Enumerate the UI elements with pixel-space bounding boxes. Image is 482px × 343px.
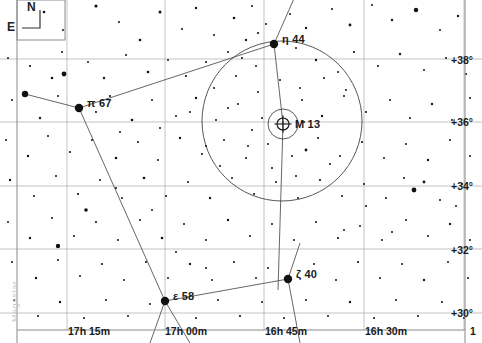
star bbox=[257, 32, 259, 34]
star bbox=[29, 237, 31, 239]
star bbox=[62, 72, 67, 77]
star bbox=[233, 17, 236, 20]
star bbox=[147, 71, 150, 74]
star bbox=[365, 111, 367, 113]
star bbox=[255, 277, 257, 279]
star bbox=[439, 29, 441, 31]
star bbox=[469, 155, 471, 157]
star bbox=[391, 19, 393, 21]
star bbox=[305, 299, 307, 301]
star bbox=[51, 77, 54, 80]
star bbox=[412, 188, 417, 193]
star bbox=[293, 239, 295, 241]
star bbox=[267, 267, 269, 269]
star bbox=[29, 65, 31, 67]
dso-label: M 13 bbox=[295, 118, 320, 130]
constellation-line bbox=[79, 108, 165, 301]
star bbox=[47, 135, 49, 137]
star bbox=[189, 263, 191, 265]
star bbox=[409, 117, 411, 119]
dec-tick-label: +38° bbox=[451, 54, 473, 66]
star bbox=[39, 117, 41, 119]
ra-tick-label: 1 bbox=[470, 325, 476, 337]
star bbox=[373, 317, 375, 319]
star bbox=[405, 219, 407, 221]
star bbox=[261, 117, 263, 119]
star bbox=[447, 261, 449, 263]
star bbox=[467, 277, 469, 279]
star bbox=[469, 239, 471, 241]
star bbox=[5, 139, 7, 141]
star bbox=[305, 149, 308, 152]
star bbox=[73, 235, 75, 237]
star bbox=[377, 65, 379, 67]
named-star bbox=[161, 297, 169, 305]
star bbox=[125, 54, 127, 56]
star bbox=[449, 223, 451, 225]
star bbox=[219, 165, 221, 167]
star bbox=[414, 8, 418, 12]
star bbox=[161, 237, 164, 240]
star bbox=[205, 267, 207, 269]
star bbox=[295, 175, 297, 177]
star bbox=[315, 221, 317, 223]
star bbox=[205, 145, 207, 147]
star bbox=[279, 79, 281, 81]
field-of-view-circle bbox=[202, 41, 362, 201]
star bbox=[175, 115, 177, 117]
constellation-line bbox=[278, 124, 283, 290]
star bbox=[189, 111, 191, 113]
star bbox=[449, 139, 451, 141]
star bbox=[283, 317, 285, 319]
star bbox=[84, 208, 88, 212]
star bbox=[319, 179, 321, 181]
star bbox=[349, 301, 351, 303]
star bbox=[119, 131, 121, 133]
star bbox=[251, 129, 253, 131]
star bbox=[115, 187, 117, 189]
star bbox=[185, 75, 187, 77]
star bbox=[175, 251, 177, 253]
dec-tick-label: +36° bbox=[451, 116, 473, 128]
star bbox=[167, 277, 169, 279]
star bbox=[423, 69, 425, 71]
dec-tick-label: +32° bbox=[451, 244, 473, 256]
star bbox=[431, 103, 433, 105]
star bbox=[439, 199, 441, 201]
star bbox=[179, 137, 181, 139]
star bbox=[201, 153, 203, 155]
star bbox=[209, 197, 211, 199]
star bbox=[11, 99, 13, 101]
compass-box bbox=[17, 0, 65, 40]
compass-north-label: N bbox=[27, 0, 36, 14]
star bbox=[363, 183, 365, 185]
star bbox=[297, 197, 299, 199]
star bbox=[255, 65, 257, 67]
megastar-watermark: Megastar bbox=[10, 260, 20, 322]
star bbox=[115, 157, 118, 160]
star-field bbox=[5, 4, 471, 319]
star bbox=[267, 143, 269, 145]
star bbox=[337, 237, 339, 239]
star bbox=[345, 89, 347, 91]
star bbox=[389, 99, 391, 101]
star bbox=[213, 34, 215, 36]
star bbox=[227, 219, 229, 221]
star bbox=[423, 279, 425, 281]
star bbox=[343, 229, 345, 231]
star bbox=[231, 177, 233, 179]
star bbox=[239, 315, 241, 317]
star bbox=[403, 177, 405, 179]
star bbox=[359, 225, 361, 227]
star-label: π 67 bbox=[87, 97, 112, 109]
star bbox=[295, 47, 297, 49]
star bbox=[165, 195, 167, 197]
star bbox=[275, 181, 277, 183]
star bbox=[151, 209, 153, 211]
star bbox=[349, 24, 352, 27]
constellation-lines bbox=[25, 0, 300, 343]
star bbox=[343, 95, 345, 97]
star bbox=[87, 61, 89, 63]
star bbox=[469, 97, 471, 99]
star bbox=[257, 91, 259, 93]
